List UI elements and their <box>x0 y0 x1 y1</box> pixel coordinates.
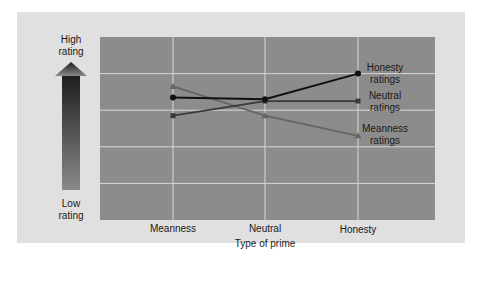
x-tick-meanness: Meanness <box>143 223 203 235</box>
square-marker <box>171 113 176 118</box>
triangle-marker <box>170 83 177 89</box>
low-rating-label: Low rating <box>41 198 101 222</box>
rating-arrow-icon <box>55 62 87 190</box>
x-axis-title: Type of prime <box>220 238 310 250</box>
high-rating-label: High rating <box>41 34 101 58</box>
series-label-neutral: Neutral ratings <box>350 90 420 114</box>
x-tick-honesty: Honesty <box>328 224 388 236</box>
series-label-meanness: Meanness ratings <box>350 123 420 147</box>
circle-marker <box>262 96 268 102</box>
circle-marker <box>170 94 176 100</box>
x-tick-neutral: Neutral <box>235 223 295 235</box>
series-label-honesty: Honesty ratings <box>350 62 420 86</box>
